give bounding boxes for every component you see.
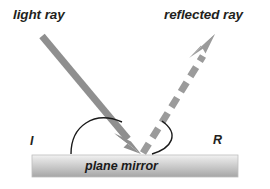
reflected-ray-label: reflected ray	[164, 8, 243, 22]
reflection-point-label: R	[213, 134, 222, 147]
light-ray-label: light ray	[13, 8, 65, 22]
reflected-light-ray	[143, 34, 215, 153]
incident-light-ray	[42, 36, 141, 154]
plane-mirror-label: plane mirror	[85, 160, 158, 173]
reflection-diagram: light ray reflected ray I R plane mirror	[0, 0, 270, 189]
incident-point-label: I	[30, 135, 33, 148]
